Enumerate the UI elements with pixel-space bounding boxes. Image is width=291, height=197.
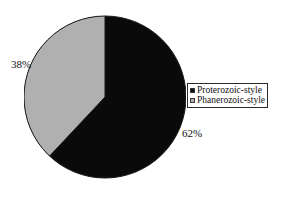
pie-chart-plot-area [24,10,186,186]
legend-swatch-icon-phanerozoic-style [190,98,195,103]
pie-chart-svg [24,10,186,186]
legend-swatch-icon-proterozoic-style [190,88,195,93]
legend-item-proterozoic-style[interactable]: Proterozoic-style [190,85,265,95]
pie-chart-figure: Proterozoic-style vs Phanerozoic-style 3… [0,0,291,197]
legend-label-proterozoic-style: Proterozoic-style [197,85,262,95]
data-label-proterozoic-style: 62% [182,127,202,139]
legend-label-phanerozoic-style: Phanerozoic-style [197,95,265,105]
legend: Proterozoic-style Phanerozoic-style [187,83,268,108]
cropped-title-remnant: Proterozoic-style vs Phanerozoic-style [22,0,172,1]
legend-item-phanerozoic-style[interactable]: Phanerozoic-style [190,95,265,105]
data-label-phanerozoic-style: 38% [11,58,31,70]
